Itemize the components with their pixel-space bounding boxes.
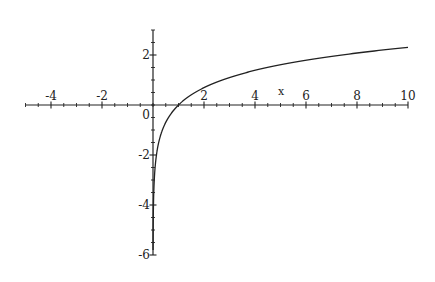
x-tick-label: 4 <box>251 89 259 103</box>
y-tick-label: 2 <box>142 48 150 62</box>
y-tick-label: -4 <box>138 198 150 212</box>
x-tick-label: 6 <box>302 89 310 103</box>
x-axis-title: x <box>278 85 285 98</box>
tick-labels: -4-22468102-2-4-60 <box>45 48 415 262</box>
x-tick-label: 10 <box>400 89 415 103</box>
ln-curve <box>153 47 408 250</box>
tick-marks <box>26 30 409 255</box>
axes <box>26 30 409 255</box>
log-function-chart: -4-22468102-2-4-60 x <box>0 0 435 282</box>
y-tick-label: -6 <box>138 248 150 262</box>
x-tick-label: 8 <box>353 89 361 103</box>
x-tick-label: -2 <box>96 89 108 103</box>
origin-label: 0 <box>142 108 150 122</box>
x-tick-label: -4 <box>45 89 57 103</box>
x-tick-label: 2 <box>200 89 208 103</box>
y-tick-label: -2 <box>138 148 150 162</box>
